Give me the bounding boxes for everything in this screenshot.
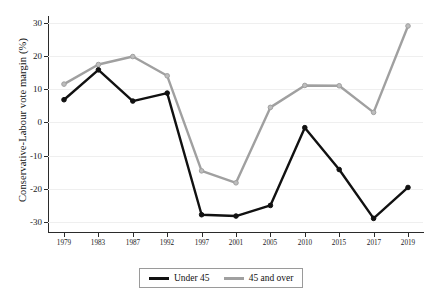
data-point <box>165 91 170 96</box>
data-point <box>371 110 376 115</box>
data-point <box>406 185 411 190</box>
data-point <box>268 105 273 110</box>
legend-label: Under 45 <box>174 273 210 283</box>
legend-swatch-icon <box>224 277 244 280</box>
legend-label: 45 and over <box>249 273 294 283</box>
chart-legend: Under 4545 and over <box>139 268 303 288</box>
data-point <box>131 54 136 59</box>
data-point <box>268 203 273 208</box>
data-point <box>131 99 136 104</box>
data-point <box>303 83 308 88</box>
data-point <box>371 216 376 221</box>
data-point <box>199 212 204 217</box>
series-layer <box>0 0 434 299</box>
series-line-45-and-over <box>64 26 408 183</box>
legend-item[interactable]: 45 and over <box>224 273 294 283</box>
data-point <box>406 24 411 29</box>
legend-item[interactable]: Under 45 <box>149 273 210 283</box>
data-point <box>62 82 67 87</box>
legend-swatch-icon <box>149 277 169 280</box>
data-point <box>234 214 239 219</box>
chart-container: Conservative-Labour vote margin (%) 3020… <box>0 0 434 299</box>
data-point <box>337 83 342 88</box>
data-point <box>96 68 101 73</box>
data-point <box>234 181 239 186</box>
series-line-under-45 <box>64 70 408 219</box>
data-point <box>96 62 101 67</box>
data-point <box>199 169 204 174</box>
data-point <box>62 97 67 102</box>
data-point <box>303 125 308 130</box>
data-point <box>165 74 170 79</box>
data-point <box>337 167 342 172</box>
